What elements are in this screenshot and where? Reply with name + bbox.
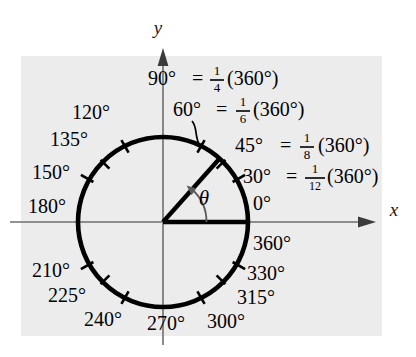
equation-30-numerator: 1: [312, 161, 319, 176]
x-axis-label: x: [389, 199, 399, 220]
equation-90-numerator: 1: [214, 63, 221, 78]
label-deg-225: 225°: [48, 284, 86, 306]
label-deg-180: 180°: [28, 195, 66, 217]
label-deg-300: 300°: [207, 310, 245, 332]
equation-90-equals: =: [192, 67, 203, 89]
label-deg-270: 270°: [147, 312, 185, 334]
equation-60-numerator: 1: [240, 94, 247, 109]
theta-label: θ: [199, 186, 209, 210]
equation-30-lhs: 30°: [243, 165, 271, 187]
label-deg-150: 150°: [32, 161, 70, 183]
equation-90-lhs: 90°: [148, 67, 176, 89]
y-axis-label: y: [152, 17, 163, 38]
label-deg-0: 0°: [253, 192, 271, 214]
equation-45-rhs: (360°): [318, 134, 369, 157]
equation-45-equals: =: [280, 134, 291, 156]
equation-45-lhs: 45°: [235, 134, 263, 156]
equation-60-denominator: 6: [240, 111, 247, 126]
label-deg-210: 210°: [32, 259, 70, 281]
unit-circle-figure: y x: [0, 0, 416, 357]
equation-30-equals: =: [286, 165, 297, 187]
equation-60-rhs: (360°): [253, 98, 304, 121]
label-deg-240: 240°: [84, 308, 122, 330]
label-deg-360: 360°: [253, 232, 291, 254]
equation-30-rhs: (360°): [327, 165, 378, 188]
equation-45-denominator: 8: [304, 147, 311, 162]
equation-60-equals: =: [216, 98, 227, 120]
equation-60-lhs: 60°: [173, 98, 201, 120]
label-deg-315: 315°: [237, 286, 275, 308]
equation-90-denominator: 4: [214, 80, 221, 95]
label-deg-330: 330°: [247, 262, 285, 284]
equation-30-denominator: 12: [309, 179, 321, 193]
label-deg-120: 120°: [72, 101, 110, 123]
equation-45-numerator: 1: [304, 130, 311, 145]
equation-90-rhs: (360°): [227, 67, 278, 90]
label-deg-135: 135°: [50, 128, 88, 150]
